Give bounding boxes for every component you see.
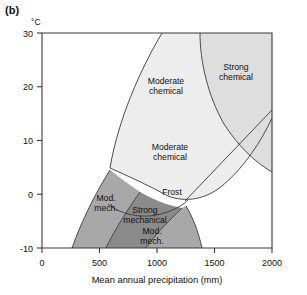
y-axis-ticks: 30 20 10 0 -10 <box>20 29 42 254</box>
x-tick-label-2000: 2000 <box>262 258 282 268</box>
y-tick-label-0: 0 <box>28 190 33 200</box>
region-label-moderate-chemical-mid-line1: Moderate <box>152 142 189 152</box>
region-label-mod-mech-left-line2: mech. <box>94 203 117 213</box>
plot-svg: Moderate chemical Strong chemical Modera… <box>0 0 307 295</box>
region-label-strong-chemical-line1: Strong <box>223 62 249 72</box>
y-tick-label--10: -10 <box>20 244 33 254</box>
region-label-mod-mech-lower-line1: Mod. <box>142 226 161 236</box>
region-label-moderate-chemical-mid-line2: chemical <box>153 152 187 162</box>
weathering-regime-figure: (b) °C <box>0 0 307 295</box>
y-tick-label-20: 20 <box>23 82 33 92</box>
x-tick-label-1500: 1500 <box>204 258 224 268</box>
x-axis-title: Mean annual precipitation (mm) <box>92 275 223 285</box>
x-tick-label-500: 500 <box>92 258 107 268</box>
x-axis-ticks: 0 500 1000 1500 2000 <box>39 248 282 268</box>
region-label-moderate-chemical-upper-line1: Moderate <box>148 76 185 86</box>
region-label-strong-mechanical-line2: mechanical <box>123 215 167 225</box>
x-tick-label-1000: 1000 <box>147 258 167 268</box>
region-label-mod-mech-lower-line2: mech. <box>140 236 163 246</box>
region-label-strong-chemical-line2: chemical <box>219 72 253 82</box>
region-label-moderate-chemical-upper-line2: chemical <box>149 86 183 96</box>
region-label-frost: Frost <box>162 187 182 197</box>
region-label-strong-mechanical-line1: Strong <box>132 205 158 215</box>
y-tick-label-30: 30 <box>23 29 33 39</box>
x-tick-label-0: 0 <box>39 258 44 268</box>
y-tick-label-10: 10 <box>23 136 33 146</box>
region-label-mod-mech-left-line1: Mod. <box>96 193 115 203</box>
